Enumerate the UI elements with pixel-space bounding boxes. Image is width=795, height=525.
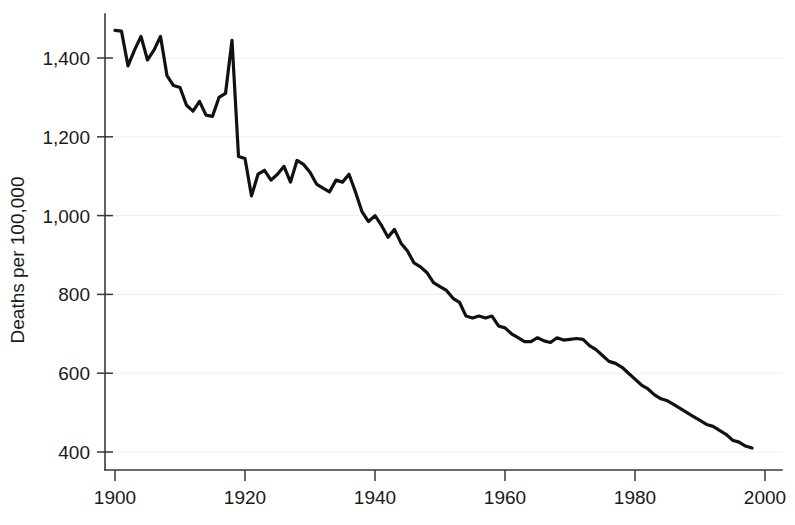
x-tick-label: 1960 xyxy=(484,487,526,508)
y-tick-label: 1,000 xyxy=(42,206,90,227)
y-tick-label: 1,400 xyxy=(42,48,90,69)
y-tick-label: 600 xyxy=(58,363,90,384)
y-tick-label: 800 xyxy=(58,284,90,305)
x-tick-label: 1920 xyxy=(224,487,266,508)
y-tick-label: 400 xyxy=(58,442,90,463)
x-tick-label: 1900 xyxy=(94,487,136,508)
line-chart: 4006008001,0001,2001,400 190019201940196… xyxy=(0,0,795,525)
x-tick-label: 1940 xyxy=(354,487,396,508)
x-tick-label: 2000 xyxy=(744,487,786,508)
chart-background xyxy=(0,0,795,525)
y-tick-label: 1,200 xyxy=(42,127,90,148)
x-tick-label: 1980 xyxy=(614,487,656,508)
y-axis-title: Deaths per 100,000 xyxy=(7,177,28,344)
chart-container: 4006008001,0001,2001,400 190019201940196… xyxy=(0,0,795,525)
